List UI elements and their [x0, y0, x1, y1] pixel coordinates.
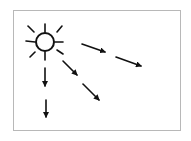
sun-icon: [26, 24, 63, 60]
sun-disc: [36, 33, 54, 51]
arrow-right-upper-2-icon: [116, 57, 141, 66]
light-ray-arrows: [45, 44, 141, 117]
sun-ray: [57, 50, 63, 54]
arrow-diagonal-1-icon: [63, 61, 77, 75]
sun-ray: [57, 26, 62, 32]
diagram-frame: [14, 11, 181, 131]
sun-ray: [28, 26, 34, 32]
sun-ray: [26, 41, 35, 42]
arrow-right-upper-1-icon: [82, 44, 105, 52]
sun-rays-diagram: [0, 0, 191, 141]
arrow-diagonal-2-icon: [83, 84, 99, 100]
sun-ray: [30, 52, 35, 57]
